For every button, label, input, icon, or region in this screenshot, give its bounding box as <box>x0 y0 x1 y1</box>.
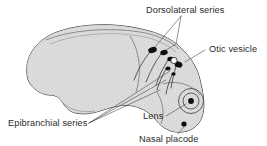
lens-dot <box>188 98 194 104</box>
placode-dot-6 <box>171 72 175 76</box>
figure-container: Dorsolateral series Otic vesicle Epibran… <box>0 0 267 146</box>
nasal-placode-dot <box>181 121 186 126</box>
label-dorsolateral-series: Dorsolateral series <box>146 5 225 15</box>
label-nasal-placode: Nasal placode <box>139 134 199 144</box>
otic-vesicle <box>171 57 177 63</box>
label-lens: Lens <box>143 111 164 121</box>
embryo-placode-diagram: Dorsolateral series Otic vesicle Epibran… <box>0 0 267 146</box>
label-otic-vesicle: Otic vesicle <box>209 44 257 54</box>
label-epibranchial-series: Epibranchial series <box>8 118 88 128</box>
placode-dot-5 <box>165 67 170 71</box>
